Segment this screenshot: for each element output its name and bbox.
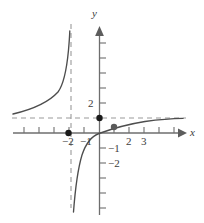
point-on-curve xyxy=(111,124,117,130)
y-tick-label-neg2: −2 xyxy=(108,158,120,169)
point-y-intercept xyxy=(96,115,102,121)
x-tick-label-neg1: −1 xyxy=(80,136,92,147)
x-tick-label-2: 2 xyxy=(126,136,132,147)
graph-figure xyxy=(0,0,204,223)
x-axis-name-label: x xyxy=(190,127,195,138)
y-tick-label-2: 2 xyxy=(88,98,94,109)
x-tick-label-neg2: −2 xyxy=(62,136,74,147)
y-tick-label-neg1: −1 xyxy=(108,143,120,154)
y-axis-name-label: y xyxy=(92,8,97,19)
x-tick-label-3: 3 xyxy=(141,136,147,147)
